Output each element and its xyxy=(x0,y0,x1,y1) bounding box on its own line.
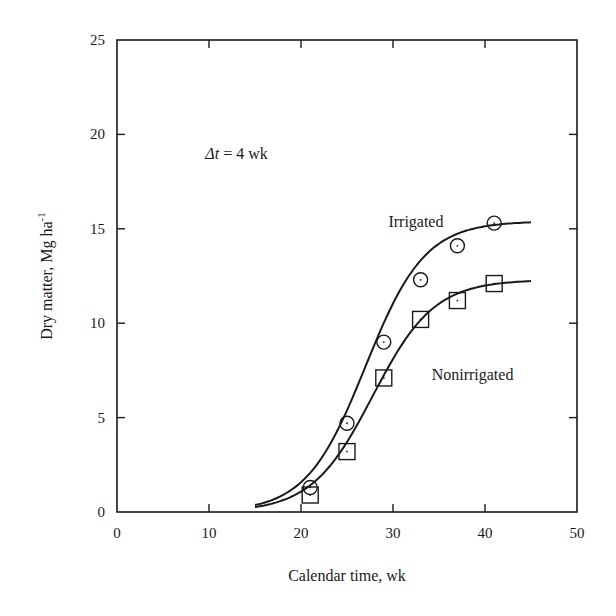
marker-center-dot xyxy=(493,222,495,224)
marker-center-dot xyxy=(346,451,348,453)
growth-chart: 01020304050 0510152025 Calendar time, wk… xyxy=(0,0,616,616)
y-tick-label: 5 xyxy=(98,410,106,426)
y-tick-label: 0 xyxy=(98,504,106,520)
series-label-nonirrigated: Nonirrigated xyxy=(432,366,514,384)
marker-center-dot xyxy=(457,300,459,302)
x-tick-label: 30 xyxy=(386,525,401,541)
marker-center-dot xyxy=(420,279,422,281)
marker-center-dot xyxy=(383,341,385,343)
x-tick-labels: 01020304050 xyxy=(113,525,584,541)
annotation-value: = 4 wk xyxy=(219,145,268,162)
fit-curve-nonirrigated xyxy=(255,281,531,507)
x-tick-label: 50 xyxy=(570,525,585,541)
y-tick-labels: 0510152025 xyxy=(90,32,105,520)
x-tick-label: 20 xyxy=(294,525,309,541)
fit-curve-irrigated xyxy=(255,222,531,505)
series-labels: IrrigatedNonirrigated xyxy=(388,213,513,384)
x-axis-title: Calendar time, wk xyxy=(288,567,406,584)
marker-center-dot xyxy=(420,319,422,321)
marker-center-dot xyxy=(346,422,348,424)
y-tick-label: 10 xyxy=(90,315,105,331)
marker-center-dot xyxy=(493,283,495,285)
y-tick-label: 15 xyxy=(90,221,105,237)
y-tick-label: 25 xyxy=(90,32,105,48)
marker-center-dot xyxy=(309,494,311,496)
y-tick-label: 20 xyxy=(90,126,105,142)
y-axis-title: Dry matter, Mg ha-1 xyxy=(35,212,56,340)
series-label-irrigated: Irrigated xyxy=(388,213,443,231)
y-axis-title-superscript: -1 xyxy=(35,212,47,221)
x-tick-label: 0 xyxy=(113,525,121,541)
fitted-curves xyxy=(255,222,531,507)
marker-center-dot xyxy=(383,377,385,379)
marker-center-dot xyxy=(457,245,459,247)
x-tick-label: 40 xyxy=(478,525,493,541)
x-tick-label: 10 xyxy=(202,525,217,541)
delta-t-symbol: Δt xyxy=(204,145,219,162)
data-markers xyxy=(302,216,502,503)
y-axis-title-text: Dry matter, Mg ha xyxy=(38,221,56,339)
interval-annotation: Δt = 4 wk xyxy=(204,145,267,162)
